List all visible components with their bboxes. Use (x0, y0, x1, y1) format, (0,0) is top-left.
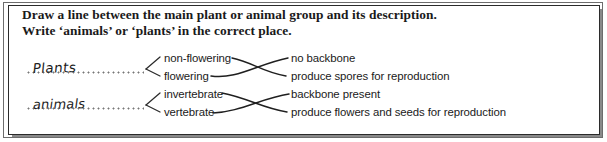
bracket-animals-upper (146, 93, 160, 105)
group-label-invertebrate[interactable]: invertebrate (164, 88, 223, 100)
instruction-line-2: Write ‘animals’ or ‘plants’ in the corre… (22, 23, 542, 39)
answer-blank-animals[interactable]: animals (26, 90, 144, 112)
handwritten-answer-animals: animals (32, 96, 86, 112)
description-produce-flowers-seeds[interactable]: produce flowers and seeds for reproducti… (291, 106, 506, 118)
answer-blank-plants[interactable]: Plants (26, 54, 144, 76)
group-label-vertebrate[interactable]: vertebrate (164, 106, 214, 118)
matching-exercise: Plants animals non-flowering flowering i… (0, 46, 607, 136)
handwritten-answer-plants: Plants (32, 59, 77, 76)
description-backbone-present[interactable]: backbone present (291, 88, 380, 100)
line-vertebrate-to-backbonepresent (213, 94, 289, 113)
description-no-backbone[interactable]: no backbone (291, 52, 355, 64)
bracket-plants-lower (146, 69, 160, 76)
group-label-non-flowering[interactable]: non-flowering (164, 52, 231, 64)
instruction-block: Draw a line between the main plant or an… (22, 7, 542, 39)
line-invertebrate-to-flowersseeds (222, 93, 287, 112)
bracket-animals-lower (146, 105, 160, 112)
group-label-flowering[interactable]: flowering (164, 70, 209, 82)
instruction-line-1: Draw a line between the main plant or an… (22, 7, 542, 23)
worksheet-page: Draw a line between the main plant or an… (0, 0, 607, 142)
bracket-plants-upper (146, 57, 160, 69)
line-nonflowering-to-spores (232, 58, 286, 76)
description-produce-spores[interactable]: produce spores for reproduction (291, 70, 449, 82)
